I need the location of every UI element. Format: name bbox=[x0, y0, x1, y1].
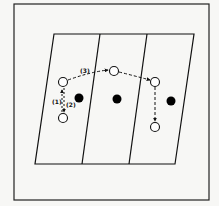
hop-path-b-c bbox=[119, 72, 150, 80]
open-site-b bbox=[110, 67, 119, 76]
filled-site-2 bbox=[113, 95, 122, 104]
surface-divider-1 bbox=[82, 34, 100, 164]
open-site-c bbox=[151, 78, 160, 87]
open-site-d bbox=[59, 114, 68, 123]
label-hop-2: (2) bbox=[66, 101, 76, 108]
filled-site-3 bbox=[167, 97, 176, 106]
label-hop-1: (1) bbox=[52, 98, 62, 105]
diagram-canvas: (1) (2) (3) bbox=[0, 0, 219, 206]
open-site-a bbox=[59, 78, 68, 87]
surface-divider-2 bbox=[129, 34, 147, 164]
label-hop-3: (3) bbox=[80, 67, 90, 74]
filled-site-1 bbox=[75, 94, 84, 103]
open-site-e bbox=[151, 123, 160, 132]
